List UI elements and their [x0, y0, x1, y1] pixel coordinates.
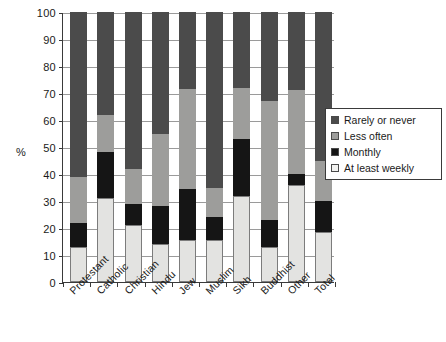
- y-tick-80: 80: [30, 62, 56, 72]
- y-tick-40: 40: [30, 170, 56, 180]
- legend-swatch-icon: [331, 132, 339, 140]
- legend-swatch-icon: [331, 164, 339, 172]
- segment-hindu-less-often[interactable]: [152, 134, 169, 207]
- stacked-bar-chart: % 1009080706050403020100 ProtestantCatho…: [0, 0, 446, 342]
- segment-jew-rarely-or-never[interactable]: [179, 12, 196, 89]
- segment-protestant-monthly[interactable]: [70, 223, 87, 247]
- x-tickmark-1: [90, 282, 91, 287]
- x-tickmark-3: [145, 282, 146, 287]
- y-tick-0: 0: [30, 278, 56, 288]
- segment-muslim-monthly[interactable]: [206, 217, 223, 240]
- y-tick-100: 100: [30, 8, 56, 18]
- y-axis-tick-labels: 1009080706050403020100: [28, 0, 56, 342]
- legend-label: Rarely or never: [344, 114, 416, 126]
- x-tickmark-5: [199, 282, 200, 287]
- x-tickmark-2: [117, 282, 118, 287]
- segment-christian-monthly[interactable]: [125, 204, 142, 226]
- y-tickmark-10: [59, 256, 63, 257]
- bar-muslim[interactable]: [206, 13, 223, 282]
- x-tickmark-9: [308, 282, 309, 287]
- y-tick-90: 90: [30, 35, 56, 45]
- bar-sikh[interactable]: [233, 13, 250, 282]
- legend-item-less-often[interactable]: Less often: [331, 130, 437, 142]
- segment-catholic-monthly[interactable]: [97, 152, 114, 198]
- segment-protestant-rarely-or-never[interactable]: [70, 12, 87, 177]
- x-tickmark-4: [172, 282, 173, 287]
- x-tickmark-8: [281, 282, 282, 287]
- segment-christian-rarely-or-never[interactable]: [125, 12, 142, 169]
- legend-label: At least weekly: [344, 162, 414, 174]
- segment-other-less-often[interactable]: [288, 90, 305, 174]
- segment-catholic-rarely-or-never[interactable]: [97, 12, 114, 115]
- y-tick-70: 70: [30, 89, 56, 99]
- y-tickmark-20: [59, 229, 63, 230]
- segment-muslim-less-often[interactable]: [206, 188, 223, 218]
- segment-sikh-rarely-or-never[interactable]: [233, 12, 250, 88]
- segment-muslim-rarely-or-never[interactable]: [206, 12, 223, 188]
- x-tickmark-0: [63, 282, 64, 287]
- y-tickmark-90: [59, 40, 63, 41]
- segment-sikh-less-often[interactable]: [233, 88, 250, 139]
- x-tickmark-end: [335, 282, 336, 287]
- segment-other-rarely-or-never[interactable]: [288, 12, 305, 90]
- x-tickmark-6: [226, 282, 227, 287]
- segment-christian-less-often[interactable]: [125, 169, 142, 204]
- y-tickmark-60: [59, 121, 63, 122]
- y-tickmark-50: [59, 148, 63, 149]
- segment-jew-monthly[interactable]: [179, 189, 196, 240]
- segment-sikh-monthly[interactable]: [233, 139, 250, 196]
- legend-label: Monthly: [344, 146, 381, 158]
- legend-item-rarely-or-never[interactable]: Rarely or never: [331, 114, 437, 126]
- segment-hindu-monthly[interactable]: [152, 206, 169, 244]
- legend-item-monthly[interactable]: Monthly: [331, 146, 437, 158]
- x-tickmark-7: [253, 282, 254, 287]
- bar-christian[interactable]: [125, 13, 142, 282]
- y-tick-10: 10: [30, 251, 56, 261]
- segment-buddhist-less-often[interactable]: [261, 101, 278, 220]
- legend-label: Less often: [344, 130, 392, 142]
- segment-hindu-rarely-or-never[interactable]: [152, 12, 169, 134]
- chart-legend: Rarely or neverLess oftenMonthlyAt least…: [325, 108, 442, 180]
- y-tickmark-70: [59, 94, 63, 95]
- segment-total-monthly[interactable]: [315, 201, 332, 232]
- segment-buddhist-monthly[interactable]: [261, 220, 278, 247]
- bar-protestant[interactable]: [70, 13, 87, 282]
- y-tick-30: 30: [30, 197, 56, 207]
- y-tickmark-80: [59, 67, 63, 68]
- legend-swatch-icon: [331, 116, 339, 124]
- segment-protestant-less-often[interactable]: [70, 177, 87, 223]
- segment-other-monthly[interactable]: [288, 174, 305, 185]
- plot-area: [62, 13, 334, 283]
- segment-buddhist-rarely-or-never[interactable]: [261, 12, 278, 101]
- segment-catholic-less-often[interactable]: [97, 115, 114, 153]
- legend-item-at-least-weekly[interactable]: At least weekly: [331, 162, 437, 174]
- y-tick-20: 20: [30, 224, 56, 234]
- segment-jew-less-often[interactable]: [179, 89, 196, 189]
- segment-sikh-at-least-weekly[interactable]: [233, 196, 250, 282]
- bar-buddhist[interactable]: [261, 13, 278, 282]
- bar-other[interactable]: [288, 13, 305, 282]
- y-tick-60: 60: [30, 116, 56, 126]
- bar-catholic[interactable]: [97, 13, 114, 282]
- y-tickmark-100: [59, 13, 63, 14]
- bar-jew[interactable]: [179, 13, 196, 282]
- y-axis-unit-label: %: [16, 146, 26, 158]
- y-tickmark-30: [59, 202, 63, 203]
- y-tick-50: 50: [30, 143, 56, 153]
- y-tickmark-40: [59, 175, 63, 176]
- legend-swatch-icon: [331, 148, 339, 156]
- bar-hindu[interactable]: [152, 13, 169, 282]
